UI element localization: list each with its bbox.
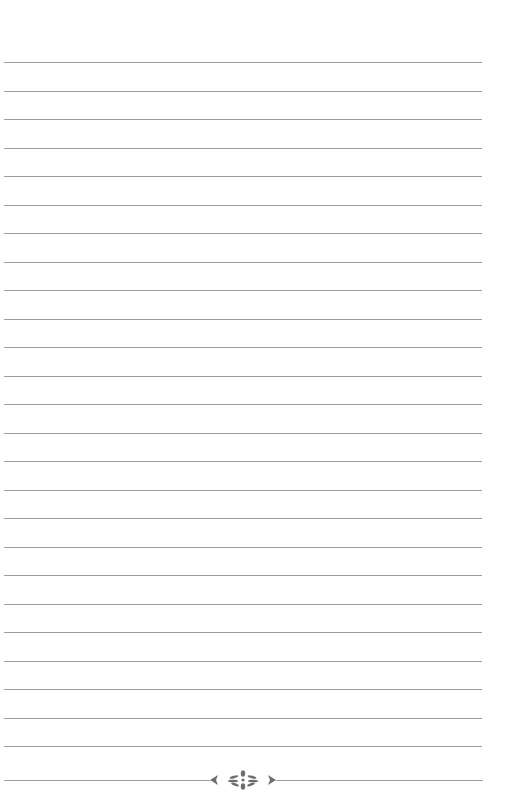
ruled-line — [4, 461, 482, 462]
ruled-line — [4, 433, 482, 434]
ruled-line — [4, 404, 482, 405]
ruled-line — [4, 262, 482, 263]
ruled-line — [4, 632, 482, 633]
ruled-line — [4, 233, 482, 234]
ruled-line — [4, 91, 482, 92]
ruled-line — [4, 575, 482, 576]
ruled-line — [4, 176, 482, 177]
ruled-line — [4, 62, 482, 63]
floral-divider-icon — [208, 768, 278, 794]
ruled-line — [4, 746, 482, 747]
ruled-line — [4, 205, 482, 206]
ruled-line — [4, 319, 482, 320]
ruled-line — [4, 661, 482, 662]
ruled-line — [4, 689, 482, 690]
ruled-line — [4, 604, 482, 605]
ruled-line — [4, 290, 482, 291]
ruled-line — [4, 347, 482, 348]
ruled-line — [4, 148, 482, 149]
footer-rule-right — [276, 780, 483, 781]
ruled-line — [4, 547, 482, 548]
footer-rule-left — [4, 780, 210, 781]
lined-paper-page — [0, 0, 505, 807]
ruled-line — [4, 119, 482, 120]
ruled-line — [4, 718, 482, 719]
ruled-line — [4, 490, 482, 491]
ruled-line — [4, 376, 482, 377]
ruled-line — [4, 518, 482, 519]
